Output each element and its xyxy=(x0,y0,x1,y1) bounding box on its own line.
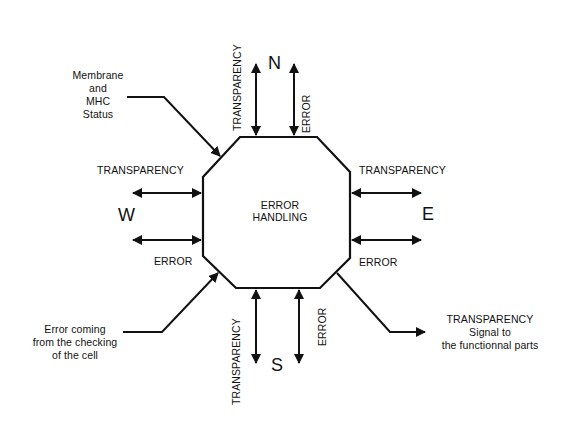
membrane-line-4: Status xyxy=(63,108,133,121)
error-source-line-3: of the cell xyxy=(22,349,128,362)
transparency-output-annotation: TRANSPARENCY Signal to the functionnal p… xyxy=(428,313,552,352)
membrane-line-1: Membrane xyxy=(63,69,133,82)
direction-west: W xyxy=(118,205,135,226)
center-label: ERROR HANDLING xyxy=(240,199,320,223)
output-line-3: the functionnal parts xyxy=(428,339,552,352)
membrane-line-2: and xyxy=(63,82,133,95)
transparency-output-arrow xyxy=(337,273,425,332)
center-label-line-1: ERROR xyxy=(240,199,320,211)
south-error-label: ERROR xyxy=(316,308,328,346)
north-transparency-label: TRANSPARENCY xyxy=(231,44,243,131)
direction-south: S xyxy=(271,355,283,376)
west-error-label: ERROR xyxy=(154,255,192,267)
north-error-label: ERROR xyxy=(300,95,312,133)
output-line-1: TRANSPARENCY xyxy=(428,313,552,326)
west-transparency-label: TRANSPARENCY xyxy=(97,164,184,176)
membrane-line-3: MHC xyxy=(63,95,133,108)
output-line-2: Signal to xyxy=(428,326,552,339)
east-error-label: ERROR xyxy=(359,256,397,268)
error-source-line-2: from the checking xyxy=(22,336,128,349)
membrane-input-arrow xyxy=(127,97,220,156)
error-handling-diagram: ERROR HANDLING N S W E TRANSPARENCY ERRO… xyxy=(0,0,571,423)
membrane-status-annotation: Membrane and MHC Status xyxy=(63,69,133,121)
south-transparency-label: TRANSPARENCY xyxy=(230,318,242,405)
error-input-arrow xyxy=(123,273,218,332)
error-source-line-1: Error coming xyxy=(22,323,128,336)
error-source-annotation: Error coming from the checking of the ce… xyxy=(22,323,128,362)
direction-north: N xyxy=(268,53,281,74)
direction-east: E xyxy=(422,204,434,225)
east-transparency-label: TRANSPARENCY xyxy=(359,164,446,176)
center-label-line-2: HANDLING xyxy=(240,211,320,223)
